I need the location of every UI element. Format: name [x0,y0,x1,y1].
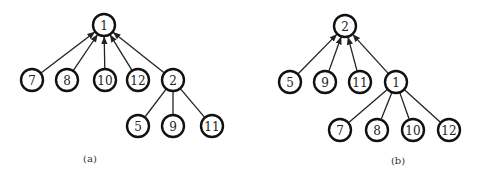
node-10: 10 [94,69,116,91]
panel-b-nodes: 259111781012 [279,15,460,141]
node-7: 7 [329,119,351,141]
edge-1-to-2 [353,35,389,74]
node-5: 5 [279,71,301,93]
node-label: 2 [341,20,349,34]
edge-2-to-11 [180,88,204,116]
node-7: 7 [21,69,43,91]
node-12: 12 [127,69,149,91]
edge-5-to-2 [298,35,337,75]
panel-a-tree: 178101225911 (a) [21,14,223,164]
node-label: 2 [169,74,177,88]
node-label: 11 [352,76,367,90]
node-label: 7 [336,124,344,138]
node-11: 11 [201,115,223,137]
edge-2-to-5 [145,89,166,117]
node-label: 8 [63,74,71,88]
node-label: 9 [169,120,177,134]
edge-7-to-1 [41,32,95,73]
edge-8-to-1 [73,35,97,71]
node-label: 5 [134,120,142,134]
node-label: 1 [392,76,400,90]
node-12: 12 [438,119,460,141]
node-2: 2 [334,15,356,37]
node-9: 9 [314,71,336,93]
node-label: 8 [373,124,381,138]
node-label: 5 [286,76,294,90]
panel-a-nodes: 178101225911 [21,14,223,137]
node-label: 11 [204,120,219,134]
node-5: 5 [127,115,149,137]
tree-diagram: 178101225911 (a) 259111781012 (b) [0,0,478,176]
node-11: 11 [349,71,371,93]
edge-10-to-1 [104,37,105,69]
panel-a-caption: (a) [83,153,97,164]
panel-b-caption: (b) [391,155,405,166]
node-label: 1 [100,19,108,33]
edge-1-to-10 [400,92,409,118]
node-label: 10 [405,124,420,138]
node-label: 12 [441,124,456,138]
edge-9-to-2 [329,37,341,71]
node-10: 10 [402,119,424,141]
node-2: 2 [162,69,184,91]
edge-11-to-2 [348,38,357,72]
node-label: 12 [130,74,145,88]
edge-1-to-8 [381,92,392,119]
node-9: 9 [162,115,184,137]
edge-12-to-1 [110,35,132,70]
node-8: 8 [366,119,388,141]
node-label: 7 [28,74,36,88]
node-1: 1 [93,14,115,36]
node-label: 9 [321,76,329,90]
node-label: 10 [97,74,112,88]
edge-1-to-12 [404,89,440,122]
node-1: 1 [385,71,407,93]
node-8: 8 [56,69,78,91]
panel-b-tree: 259111781012 (b) [279,15,460,166]
